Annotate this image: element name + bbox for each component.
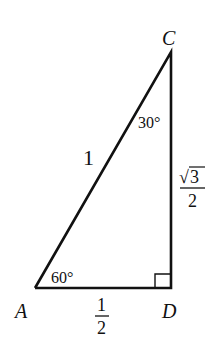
- vertex-label-a: A: [13, 300, 28, 322]
- height-denominator: 2: [188, 191, 197, 211]
- base-denominator: 2: [97, 318, 106, 338]
- height-length-fraction: √ 3 2: [179, 167, 205, 211]
- base-numerator: 1: [97, 295, 106, 315]
- hypotenuse-length: 1: [83, 145, 94, 170]
- sqrt-symbol: √: [179, 167, 189, 187]
- height-numerator: 3: [190, 167, 199, 187]
- triangle-edges: [35, 52, 171, 288]
- angle-a-label: 60°: [51, 269, 73, 286]
- angle-c-label: 30°: [138, 114, 160, 131]
- vertex-label-d: D: [161, 300, 177, 322]
- triangle-diagram: C A D 1 30° 60° 1 2 √ 3 2: [0, 0, 216, 362]
- right-angle-marker: [155, 274, 171, 288]
- vertex-label-c: C: [162, 27, 176, 49]
- base-length-fraction: 1 2: [95, 295, 109, 338]
